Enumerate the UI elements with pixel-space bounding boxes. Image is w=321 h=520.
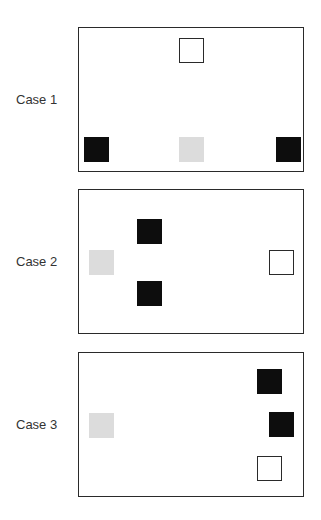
case-1-panel [78,27,304,172]
black-square [84,137,109,162]
case-1-label: Case 1 [16,93,57,107]
white-square [257,456,282,481]
case-2-panel [78,189,304,334]
case-2-label: Case 2 [16,255,57,269]
gray-square [179,137,204,162]
white-square [179,38,204,63]
black-square [269,412,294,437]
black-square [257,369,282,394]
black-square [137,219,162,244]
gray-square [89,413,114,438]
black-square [137,281,162,306]
white-square [269,250,294,275]
gray-square [89,250,114,275]
black-square [276,137,301,162]
case-3-panel [78,352,304,497]
case-3-label: Case 3 [16,418,57,432]
